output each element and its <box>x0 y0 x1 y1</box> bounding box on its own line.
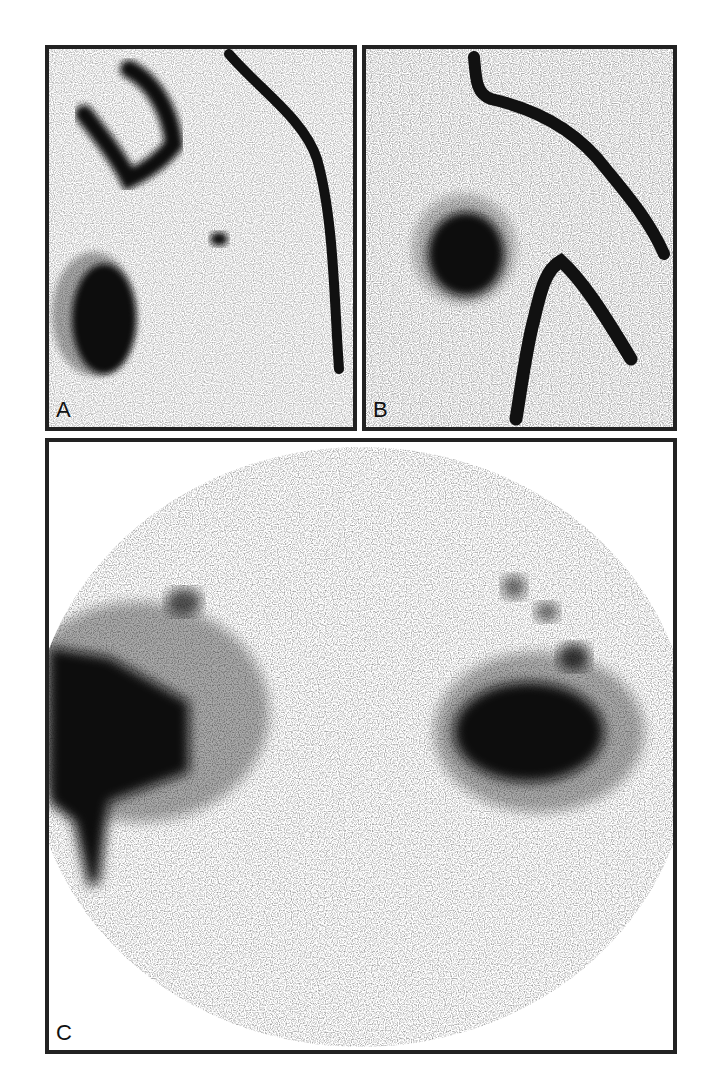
panel-label-a: A <box>56 399 71 421</box>
panel-b: B <box>362 45 677 431</box>
panel-label-b: B <box>373 399 388 421</box>
panel-a: A <box>45 45 357 431</box>
scintigraphy-image-b <box>366 49 673 427</box>
scintigraphy-image-a <box>49 49 353 427</box>
panel-c: C <box>45 438 677 1054</box>
panel-label-c: C <box>56 1022 72 1044</box>
scintigraphy-image-c <box>49 442 673 1050</box>
